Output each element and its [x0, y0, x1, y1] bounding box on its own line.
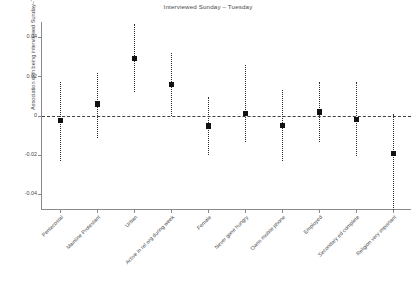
confidence-interval-bar [393, 114, 394, 210]
x-tick-label-text: Religion very important [355, 214, 398, 257]
point-estimate-marker [280, 123, 285, 128]
y-axis-title: Association with being interviewed Sunda… [30, 0, 36, 140]
y-tick-mark [38, 37, 42, 38]
y-tick-label: 0.02 [27, 73, 38, 79]
point-estimate-marker [243, 111, 248, 116]
x-tick-label-text: Never gone hungry [213, 214, 249, 250]
plot-area: 0.040.020-0.02-0.04 PentecostalMainline … [41, 22, 411, 210]
x-tick-label: Mainline Protestant [97, 182, 133, 218]
y-tick-label: -0.04 [25, 190, 37, 196]
x-tick-label: Owns mobile phone [282, 181, 319, 218]
y-tick-label: 0 [34, 112, 37, 118]
x-tick-label-text: Pentecostal [40, 214, 64, 238]
x-tick-label: Religion very important [393, 176, 416, 219]
x-tick-label-text: Mainline Protestant [65, 214, 101, 250]
x-tick-label: Never gone hungry [245, 182, 281, 218]
y-tick-mark [38, 194, 42, 195]
x-tick-label-text: Owns mobile phone [249, 214, 286, 251]
point-estimate-marker [169, 82, 174, 87]
confidence-interval-bar [245, 65, 246, 143]
x-tick-label-text: Urban [124, 214, 138, 228]
chart-title: Interviewed Sunday – Tuesday [0, 3, 416, 10]
point-estimate-marker [206, 123, 211, 128]
x-tick-label: Employed [319, 197, 340, 218]
x-tick-label: Female [208, 202, 225, 219]
x-tick-label-text: Female [196, 214, 213, 231]
y-tick-label: -0.02 [25, 151, 37, 157]
point-estimate-marker [391, 151, 396, 156]
forest-plot-figure: Interviewed Sunday – Tuesday Association… [0, 0, 416, 285]
y-tick-label: 0.04 [27, 33, 38, 39]
x-tick-label: Urban [134, 204, 148, 218]
point-estimate-marker [132, 56, 137, 61]
point-estimate-marker [354, 117, 359, 122]
x-tick-label-text: Employed [302, 214, 323, 235]
y-tick-mark [38, 76, 42, 77]
point-estimate-marker [317, 109, 322, 114]
x-tick-label-text: Secondary ed complete [317, 214, 361, 258]
point-estimate-marker [95, 101, 100, 106]
point-estimate-marker [58, 118, 63, 123]
x-tick-label: Pentecostal [60, 194, 84, 218]
y-tick-mark [38, 155, 42, 156]
